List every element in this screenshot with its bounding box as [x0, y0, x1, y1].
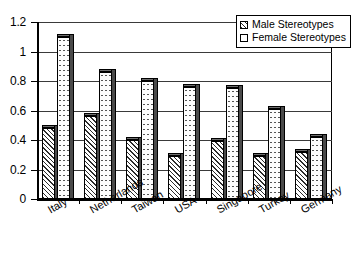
x-axis-label: Italy: [46, 196, 69, 216]
legend-item-male: Male Stereotypes: [240, 18, 346, 31]
x-axis-label: Germany: [299, 183, 344, 215]
x-axis-label: Taiwan: [130, 189, 165, 216]
empty-square-icon: [240, 34, 248, 42]
x-axis-label: Turkey: [257, 189, 291, 215]
hatched-square-icon: [240, 21, 248, 29]
x-axis-label: Singapore: [215, 181, 264, 216]
legend: Male Stereotypes Female Stereotypes: [236, 15, 351, 48]
legend-label-female: Female Stereotypes: [252, 32, 346, 43]
legend-item-female: Female Stereotypes: [240, 31, 346, 44]
bar-chart: 00.20.40.60.811.2 ItalyNetherlandsTaiwan…: [0, 0, 358, 266]
legend-label-male: Male Stereotypes: [252, 19, 334, 30]
x-axis-label: USA: [173, 195, 198, 216]
